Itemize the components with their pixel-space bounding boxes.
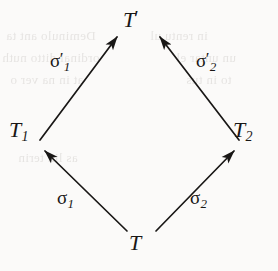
node-t-2-subscript: 2	[245, 129, 252, 144]
node-t: T	[129, 232, 141, 254]
label-sigma-2-prime: σ′2	[196, 50, 216, 73]
node-t-1: T1	[9, 119, 28, 144]
node-t-1-base: T	[9, 117, 21, 142]
label-sigma-2: σ2	[190, 188, 207, 210]
sigma-glyph: σ	[50, 50, 60, 71]
sigma-glyph: σ	[196, 50, 206, 71]
sigma-glyph: σ	[57, 187, 67, 208]
node-t-prime-mark: ′	[134, 7, 138, 29]
label-sigma-1-prime: σ′1	[50, 50, 70, 73]
node-t-prime: T′	[123, 8, 139, 31]
subscript: 2	[201, 196, 208, 211]
commutative-diagram-figure: Deminulo ant ta ordinal ditto nuth at in…	[0, 0, 278, 271]
node-t-2-base: T	[233, 117, 245, 142]
node-t-base: T	[129, 230, 141, 255]
sigma-glyph: σ	[190, 187, 200, 208]
subscript: 2	[210, 59, 217, 74]
subscript: 1	[68, 196, 75, 211]
subscript: 1	[64, 59, 71, 74]
prime-mark: ′	[206, 49, 210, 68]
node-t-1-subscript: 1	[21, 129, 28, 144]
label-sigma-1: σ1	[57, 188, 74, 210]
prime-mark: ′	[60, 49, 64, 68]
node-t-2: T2	[233, 119, 252, 144]
